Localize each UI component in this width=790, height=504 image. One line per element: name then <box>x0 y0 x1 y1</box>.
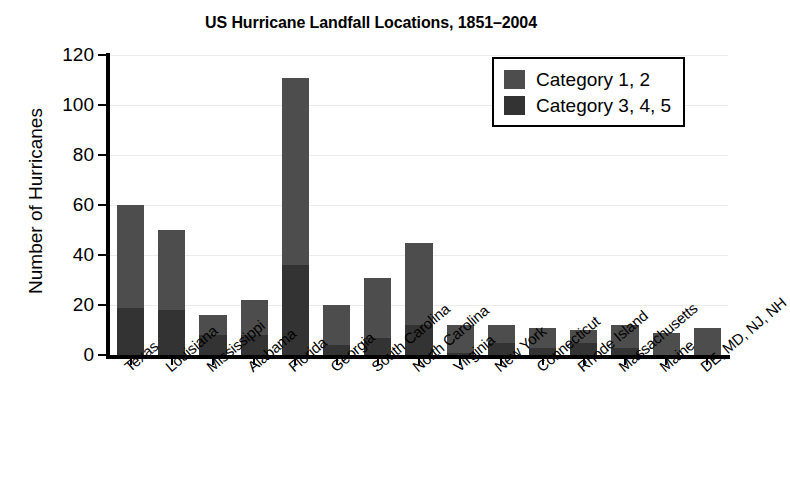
bar-segment-category-1-2 <box>323 305 350 345</box>
chart-title: US Hurricane Landfall Locations, 1851–20… <box>0 14 742 32</box>
y-axis-tick-label: 60 <box>38 195 94 214</box>
bar-texas <box>117 205 144 355</box>
bar-segment-category-1-2 <box>117 205 144 308</box>
legend-item: Category 3, 4, 5 <box>504 92 671 118</box>
chart-legend: Category 1, 2Category 3, 4, 5 <box>492 57 685 127</box>
legend-item: Category 1, 2 <box>504 66 671 92</box>
legend-item-label: Category 3, 4, 5 <box>536 96 671 115</box>
y-axis-tick-label: 20 <box>38 295 94 314</box>
bar-louisiana <box>158 230 185 355</box>
bar-segment-category-1-2 <box>364 278 391 338</box>
y-axis-tick-label: 120 <box>38 45 94 64</box>
bar-florida <box>282 78 309 356</box>
y-axis-tick-label: 100 <box>38 95 94 114</box>
bar-segment-category-1-2 <box>282 78 309 266</box>
y-axis-tick-label: 40 <box>38 245 94 264</box>
y-axis-tick-labels: 020406080100120 <box>30 0 94 504</box>
y-axis-tick-label: 80 <box>38 145 94 164</box>
legend-swatch-icon <box>504 96 525 115</box>
bar-segment-category-1-2 <box>158 230 185 310</box>
legend-item-label: Category 1, 2 <box>536 70 650 89</box>
y-axis-tick-label: 0 <box>38 345 94 364</box>
legend-swatch-icon <box>504 70 525 89</box>
